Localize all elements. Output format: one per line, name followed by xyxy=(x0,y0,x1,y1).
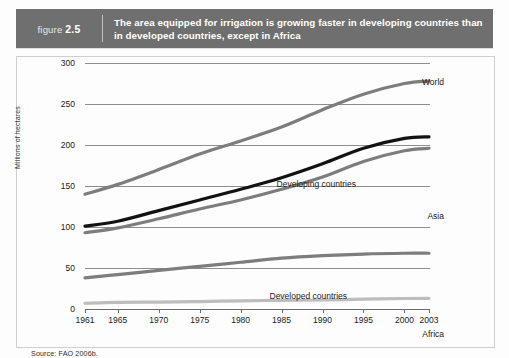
series-line xyxy=(85,298,429,303)
chart-plot-area: Millions of hectares 050100150200250300 … xyxy=(17,57,494,347)
figure-banner: figure 2.5 The area equipped for irrigat… xyxy=(16,9,493,48)
series-label-developed-countries: Developed countries xyxy=(270,291,348,301)
series-line xyxy=(85,148,429,232)
series-label-africa: Africa xyxy=(422,329,444,339)
chart-series-lines xyxy=(17,57,494,347)
figure-number-text: 2.5 xyxy=(65,23,80,35)
figure-prefix-text: figure xyxy=(37,24,62,35)
figure-page: figure 2.5 The area equipped for irrigat… xyxy=(0,0,509,358)
series-line xyxy=(85,81,429,194)
source-note: Source: FAO 2006b. xyxy=(31,349,98,358)
series-label-world: World xyxy=(422,77,444,87)
series-label-asia: Asia xyxy=(427,211,444,221)
series-line xyxy=(85,137,429,226)
figure-title: The area equipped for irrigation is grow… xyxy=(103,16,493,42)
series-label-developing-countries: Developing countries xyxy=(277,179,356,189)
chart-container: Millions of hectares 050100150200250300 … xyxy=(16,56,495,348)
series-line xyxy=(85,253,429,278)
figure-number-label: figure 2.5 xyxy=(16,23,102,35)
